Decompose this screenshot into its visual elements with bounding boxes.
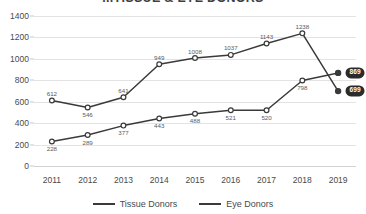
data-point-label: 1037 bbox=[224, 44, 238, 51]
series-marker bbox=[85, 105, 90, 110]
legend-label: Eye Donors bbox=[226, 199, 273, 209]
series-marker bbox=[49, 98, 54, 103]
data-point-label: 949 bbox=[154, 54, 164, 61]
legend-item[interactable]: Tissue Donors bbox=[93, 199, 178, 209]
y-axis-tick-label: 1200 bbox=[10, 32, 29, 42]
data-point-label: 443 bbox=[154, 122, 164, 129]
data-point-label: 228 bbox=[47, 145, 57, 152]
x-axis-tick-label: 2015 bbox=[186, 175, 205, 185]
series-marker bbox=[49, 139, 54, 144]
endpoint-value-badge: 699 bbox=[346, 86, 365, 97]
series-marker bbox=[157, 116, 162, 121]
data-point-label: 488 bbox=[190, 117, 200, 124]
series-marker bbox=[228, 52, 233, 57]
series-marker bbox=[336, 89, 341, 94]
series-marker bbox=[85, 133, 90, 138]
chart-title: ...TISSUE & EYE DONORS bbox=[0, 0, 366, 5]
data-point-label: 546 bbox=[82, 111, 92, 118]
endpoint-value-badge: 869 bbox=[346, 67, 365, 78]
x-axis-tick-label: 2013 bbox=[114, 175, 133, 185]
series-marker bbox=[228, 108, 233, 113]
data-point-label: 521 bbox=[226, 114, 236, 121]
y-axis-tick-label: 800 bbox=[15, 75, 29, 85]
data-point-label: 1143 bbox=[260, 33, 273, 40]
y-axis-tick-label: 0 bbox=[24, 161, 29, 171]
data-point-label: 1008 bbox=[188, 48, 202, 55]
y-axis-tick-label: 1000 bbox=[10, 54, 29, 64]
data-point-label: 641 bbox=[118, 87, 128, 94]
series-marker bbox=[157, 62, 162, 67]
x-axis-tick-label: 2019 bbox=[329, 175, 348, 185]
series-marker bbox=[336, 70, 341, 75]
gridline bbox=[34, 166, 356, 167]
legend-label: Tissue Donors bbox=[120, 199, 178, 209]
data-point-label: 377 bbox=[118, 129, 128, 136]
series-marker bbox=[121, 95, 126, 100]
series-line bbox=[52, 73, 338, 142]
y-axis-tick-label: 1400 bbox=[10, 11, 29, 21]
x-axis-tick-label: 2016 bbox=[221, 175, 240, 185]
x-axis-tick-label: 2018 bbox=[293, 175, 312, 185]
plot-area: 0200400600800100012001400 20112012201320… bbox=[34, 16, 356, 166]
data-point-label: 1238 bbox=[295, 23, 309, 30]
series-marker bbox=[264, 41, 269, 46]
x-axis-tick-label: 2014 bbox=[150, 175, 169, 185]
data-point-label: 798 bbox=[297, 84, 307, 91]
chart-container: ...TISSUE & EYE DONORS 02004006008001000… bbox=[0, 0, 366, 214]
series-marker bbox=[300, 31, 305, 36]
series-marker bbox=[193, 56, 198, 61]
data-point-label: 520 bbox=[261, 114, 271, 121]
legend-item[interactable]: Eye Donors bbox=[199, 199, 273, 209]
x-axis-tick-label: 2012 bbox=[78, 175, 97, 185]
chart-legend: Tissue DonorsEye Donors bbox=[0, 199, 366, 209]
x-axis-tick-label: 2011 bbox=[43, 175, 61, 185]
y-axis-tick-label: 400 bbox=[15, 118, 29, 128]
x-axis-tick-label: 2017 bbox=[257, 175, 276, 185]
series-line bbox=[52, 33, 338, 107]
y-axis-tick-label: 600 bbox=[15, 97, 29, 107]
series-marker bbox=[121, 123, 126, 128]
legend-line-icon bbox=[93, 203, 115, 205]
series-marker bbox=[300, 78, 305, 83]
series-marker bbox=[193, 111, 198, 116]
series-marker bbox=[264, 108, 269, 113]
y-axis-tick-label: 200 bbox=[15, 140, 29, 150]
data-point-label: 612 bbox=[47, 90, 57, 97]
data-point-label: 289 bbox=[82, 139, 92, 146]
legend-line-icon bbox=[199, 203, 221, 205]
